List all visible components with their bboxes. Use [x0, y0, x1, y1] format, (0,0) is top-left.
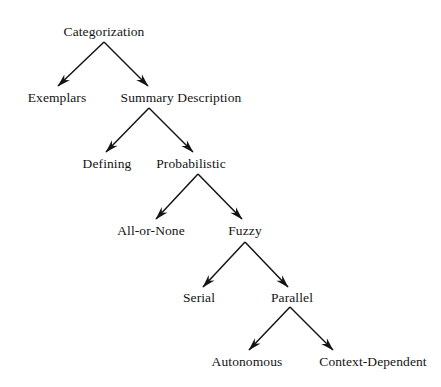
tree-node-context-dependent: Context-Dependent — [319, 354, 426, 369]
categorization-tree-diagram: CategorizationExemplarsSummary Descripti… — [0, 0, 441, 387]
tree-edge-parallel-to-autonomous — [249, 307, 290, 350]
tree-edge-probabilistic-to-all-or-none — [156, 174, 198, 219]
tree-edge-categorization-to-summary-description — [104, 42, 148, 86]
tree-edge-summary-description-to-probabilistic — [149, 108, 193, 152]
tree-node-parallel: Parallel — [271, 290, 313, 305]
tree-node-autonomous: Autonomous — [212, 354, 283, 369]
tree-node-categorization: Categorization — [64, 24, 145, 39]
tree-node-exemplars: Exemplars — [28, 90, 87, 105]
tree-node-summary-description: Summary Description — [121, 90, 242, 105]
tree-node-all-or-none: All-or-None — [117, 223, 185, 238]
tree-edge-categorization-to-exemplars — [58, 42, 104, 86]
tree-node-defining: Defining — [83, 156, 132, 171]
tree-node-fuzzy: Fuzzy — [228, 223, 262, 238]
tree-edges-layer — [0, 0, 441, 387]
tree-edge-fuzzy-to-parallel — [245, 242, 288, 287]
tree-edge-probabilistic-to-fuzzy — [198, 174, 242, 219]
tree-node-probabilistic: Probabilistic — [156, 156, 226, 171]
tree-node-serial: Serial — [183, 290, 215, 305]
tree-edge-fuzzy-to-serial — [203, 242, 245, 287]
tree-edge-parallel-to-context-dependent — [290, 307, 333, 350]
tree-edge-summary-description-to-defining — [106, 108, 149, 152]
